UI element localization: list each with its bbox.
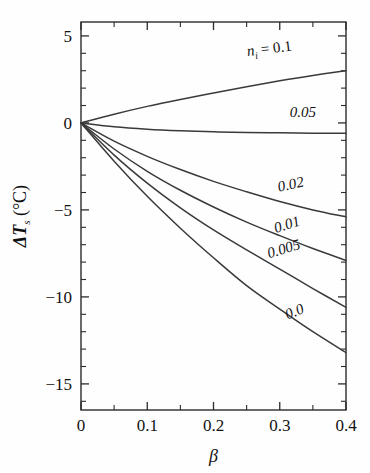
curve-label-0.02: 0.02 bbox=[276, 173, 305, 194]
figure-container: 50−5−10−1500.10.20.30.4ni = 0.10.050.020… bbox=[0, 0, 370, 473]
y-axis-tick-label: 5 bbox=[64, 27, 73, 46]
curve-label-group-0.05: 0.05 bbox=[290, 104, 317, 120]
curve-label-0.005: 0.005 bbox=[265, 236, 302, 261]
curve-n-0.005 bbox=[81, 123, 346, 307]
x-axis-tick-label: 0.3 bbox=[269, 416, 290, 435]
plot-frame bbox=[81, 22, 346, 410]
y-axis-title-group: ΔTs (°C) bbox=[10, 185, 32, 248]
curve-n-0.0 bbox=[81, 123, 346, 353]
x-axis-tick-label: 0.2 bbox=[203, 416, 224, 435]
curve-label-group-0.02: 0.02 bbox=[276, 173, 305, 194]
curve-label-group-0.1: ni = 0.1 bbox=[246, 38, 293, 62]
chart-plot: 50−5−10−1500.10.20.30.4ni = 0.10.050.020… bbox=[0, 0, 370, 473]
x-axis-tick-label: 0 bbox=[77, 416, 86, 435]
x-axis-tick-label: 0.4 bbox=[335, 416, 357, 435]
curve-label-group-0.0: 0.0 bbox=[283, 300, 307, 322]
x-axis-title: β bbox=[208, 446, 218, 466]
y-axis-title: ΔTs (°C) bbox=[10, 185, 32, 248]
y-axis-tick-label: −15 bbox=[45, 375, 72, 394]
y-axis-tick-label: 0 bbox=[64, 114, 73, 133]
curve-n-0.05 bbox=[81, 123, 346, 133]
curve-label-0.01: 0.01 bbox=[272, 213, 302, 236]
curve-n-0.02 bbox=[81, 123, 346, 217]
y-axis-tick-label: −5 bbox=[54, 201, 72, 220]
curve-label-0.1: ni = 0.1 bbox=[246, 38, 293, 62]
y-axis-tick-label: −10 bbox=[45, 288, 72, 307]
curve-label-0.05: 0.05 bbox=[290, 104, 317, 120]
curve-n-0.01 bbox=[81, 123, 346, 260]
x-axis-tick-label: 0.1 bbox=[137, 416, 158, 435]
curve-label-group-0.005: 0.005 bbox=[265, 236, 302, 261]
curve-label-0.0: 0.0 bbox=[283, 300, 307, 322]
curve-label-group-0.01: 0.01 bbox=[272, 213, 302, 236]
